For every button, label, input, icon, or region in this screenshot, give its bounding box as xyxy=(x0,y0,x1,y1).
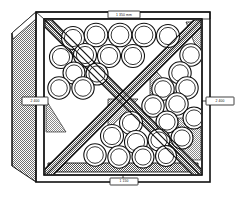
figure-container: 1 350 mm 2 400 2 400 1 150 xyxy=(0,0,240,201)
label-tab-right: 2 400 xyxy=(202,97,234,105)
drum xyxy=(108,146,130,168)
technical-drawing: 1 350 mm 2 400 2 400 1 150 xyxy=(0,0,240,201)
label-left-text: 2 400 xyxy=(31,99,40,103)
drum-outer-rim xyxy=(101,125,124,148)
drum xyxy=(157,25,180,48)
drum xyxy=(171,127,193,149)
drum xyxy=(101,125,124,148)
drum-outer-rim xyxy=(108,146,130,168)
label-tab-bottom: 1 150 xyxy=(110,175,138,185)
drum xyxy=(84,23,108,47)
label-top-text: 1 350 mm xyxy=(116,13,132,17)
label-tab-left: 2 400 xyxy=(22,97,48,105)
label-tab-top: 1 350 mm xyxy=(108,11,140,19)
drum-outer-rim xyxy=(157,25,180,48)
drum-outer-rim xyxy=(72,77,94,99)
drum xyxy=(132,23,156,47)
label-bottom-text: 1 150 xyxy=(120,179,129,183)
drum-outer-rim xyxy=(108,23,132,47)
drum xyxy=(48,77,70,99)
drum-outer-rim xyxy=(84,144,106,166)
label-right-text: 2 400 xyxy=(216,99,225,103)
drum xyxy=(72,77,94,99)
drum xyxy=(122,45,145,68)
drum-outer-rim xyxy=(48,77,70,99)
drum-outer-rim xyxy=(132,23,156,47)
drum xyxy=(84,144,106,166)
drum-outer-rim xyxy=(84,23,108,47)
drum xyxy=(108,23,132,47)
drum-outer-rim xyxy=(122,45,145,68)
drum xyxy=(132,146,154,168)
